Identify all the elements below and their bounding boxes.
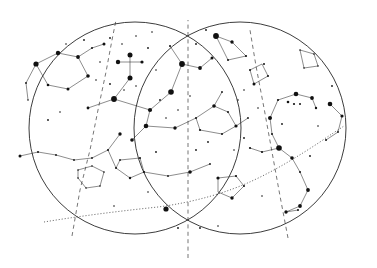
star-marker: [144, 124, 149, 129]
star-marker: [243, 137, 245, 139]
star-marker: [83, 39, 85, 41]
star-marker: [118, 132, 121, 135]
star-marker: [128, 76, 133, 81]
star-marker: [113, 205, 115, 207]
star-marker: [103, 43, 106, 46]
star-marker: [235, 175, 237, 177]
star-marker: [213, 33, 219, 39]
constellation-line: [232, 42, 246, 56]
star-marker: [47, 84, 50, 87]
star-marker: [199, 129, 201, 131]
constellation-line: [36, 53, 88, 89]
constellation-line: [278, 94, 296, 100]
star-marker: [128, 53, 133, 58]
star-marker: [85, 187, 87, 189]
constellation-line: [196, 118, 200, 130]
star-marker: [77, 169, 79, 171]
star-marker: [294, 92, 299, 97]
constellation-line: [292, 158, 300, 172]
star-marker: [227, 111, 229, 113]
meridian-line: [250, 30, 288, 238]
constellation-line: [250, 70, 254, 84]
constellation-line: [286, 206, 300, 212]
star-marker: [109, 37, 111, 39]
star-marker: [299, 49, 301, 51]
star-marker: [123, 89, 125, 91]
star-marker: [217, 225, 219, 227]
star-marker: [276, 145, 282, 151]
constellation-line: [300, 50, 304, 68]
star-marker: [298, 204, 302, 208]
star-marker: [67, 88, 70, 91]
star-marker: [189, 95, 191, 97]
constellation-line: [88, 99, 114, 108]
star-marker: [293, 103, 295, 105]
sky-map-svg: [0, 0, 377, 268]
star-marker: [284, 210, 287, 213]
star-marker: [111, 96, 117, 102]
star-marker: [73, 159, 75, 161]
star-marker: [91, 165, 93, 167]
constellation-line: [330, 104, 342, 116]
star-marker: [261, 195, 263, 197]
star-marker: [86, 74, 90, 78]
constellation-line: [114, 78, 130, 99]
star-marker: [195, 117, 197, 119]
meridian-line: [72, 20, 116, 236]
star-marker: [56, 51, 60, 55]
constellation-line: [116, 168, 130, 178]
star-marker: [199, 227, 201, 229]
constellation-line: [262, 64, 268, 76]
constellation-line: [270, 100, 278, 118]
star-marker: [230, 196, 233, 199]
constellation-line: [200, 58, 212, 68]
star-marker: [313, 53, 315, 55]
constellation-line: [236, 118, 248, 126]
star-marker: [195, 43, 197, 45]
constellation-line: [20, 134, 120, 160]
constellation-line: [78, 166, 104, 188]
star-marker: [47, 119, 49, 121]
star-marker: [195, 149, 197, 151]
constellation-line: [200, 130, 222, 134]
constellation-line: [228, 56, 246, 60]
star-marker: [19, 155, 22, 158]
star-marker: [140, 60, 143, 63]
constellation-line: [218, 176, 244, 198]
star-marker: [268, 116, 272, 120]
faint-star-field: [25, 29, 339, 229]
star-marker: [147, 47, 149, 49]
constellation-line: [108, 150, 116, 168]
star-marker: [209, 163, 211, 165]
constellation-line: [270, 118, 272, 134]
star-marker: [65, 43, 67, 45]
star-marker: [109, 83, 111, 85]
star-marker: [155, 151, 157, 153]
star-marker: [290, 156, 294, 160]
star-marker: [115, 167, 117, 169]
star-marker: [173, 126, 176, 129]
constellation-line: [146, 126, 175, 128]
star-marker: [103, 171, 105, 173]
constellation-line: [78, 44, 104, 57]
star-marker: [340, 114, 343, 117]
star-marker: [129, 177, 131, 179]
star-marker: [59, 111, 61, 113]
bright-star-field: [19, 33, 344, 214]
star-marker: [267, 75, 269, 77]
star-marker: [25, 82, 27, 84]
star-marker: [207, 141, 209, 143]
star-marker: [177, 109, 179, 111]
star-marker: [233, 149, 235, 151]
star-marker: [37, 151, 39, 153]
star-marker: [163, 206, 168, 211]
constellation-line: [120, 158, 140, 160]
star-marker: [95, 79, 97, 81]
star-marker: [216, 176, 219, 179]
star-marker: [245, 55, 247, 57]
star-marker: [328, 102, 333, 107]
constellation-line: [250, 148, 262, 152]
constellation-line: [326, 132, 338, 140]
star-marker: [253, 83, 256, 86]
star-chart: [0, 0, 377, 268]
